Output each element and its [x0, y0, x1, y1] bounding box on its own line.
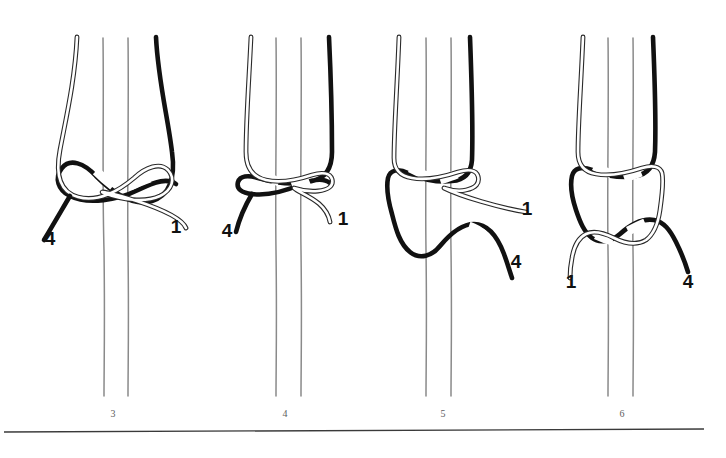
core-thread-left — [608, 38, 609, 396]
cord-label-1-panel-5: 1 — [522, 198, 533, 219]
panel-number-5: 5 — [441, 408, 446, 419]
panel-number-3: 3 — [111, 408, 116, 419]
cord-label-1-panel-4: 1 — [338, 208, 349, 229]
core-thread-right — [301, 38, 302, 396]
panel-number-4: 4 — [283, 408, 288, 419]
core-thread-left — [276, 38, 277, 396]
panel-number-6: 6 — [620, 408, 625, 419]
knot-sequence-figure: 4 1 3 4 1 4 1 4 5 — [0, 0, 726, 458]
cord-label-1-panel-6: 1 — [566, 271, 577, 292]
core-thread-right — [633, 38, 634, 396]
core-thread-right — [128, 38, 129, 396]
cord-label-4-panel-6: 4 — [683, 271, 694, 292]
figure-background — [0, 0, 726, 458]
cord-label-4-panel-4: 4 — [222, 220, 233, 241]
core-thread-left — [426, 38, 427, 396]
figure-root: 4 1 3 4 1 4 1 4 5 — [0, 0, 726, 458]
core-thread-right — [451, 38, 452, 396]
cord-label-1-panel-3: 1 — [171, 216, 182, 237]
cord-label-4-panel-3: 4 — [45, 228, 56, 249]
cord-label-4-panel-5: 4 — [511, 251, 522, 272]
